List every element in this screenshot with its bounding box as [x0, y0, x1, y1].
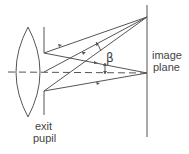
exit-pupil-label-line2: pupil: [33, 132, 56, 144]
ray-bottom-to-offaxis: [44, 17, 147, 91]
ray-top-to-offaxis: [44, 17, 147, 53]
image-plane-label-line2: plane: [153, 61, 180, 73]
arrow-icon: [96, 82, 100, 85]
arrow-icon: [103, 71, 107, 74]
optical-axis: [8, 72, 147, 73]
angle-beta-label: β: [106, 51, 114, 65]
ray-bottom-to-onaxis: [44, 73, 147, 91]
arrow-icon: [82, 52, 86, 55]
exit-pupil-label-line1: exit: [35, 120, 52, 132]
optics-diagram: β image plane exit pupil: [0, 0, 189, 154]
image-plane-label-line1: image: [152, 49, 182, 61]
